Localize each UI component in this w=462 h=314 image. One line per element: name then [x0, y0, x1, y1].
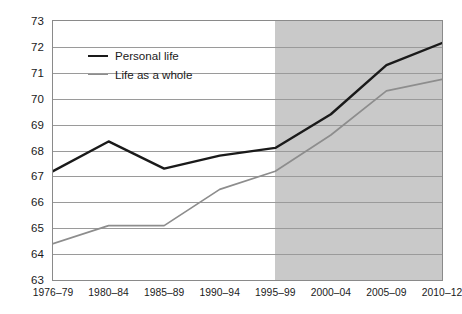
y-axis-tick-label: 72: [31, 41, 44, 53]
x-axis-tick-label: 1990–94: [199, 287, 239, 298]
legend-item-life-as-a-whole: Life as a whole: [88, 65, 192, 84]
y-axis-tick-label: 71: [31, 67, 44, 79]
y-axis-tick-label: 66: [31, 196, 44, 208]
x-axis-labels: 1976–791980–841985–891990–941995–992000–…: [52, 287, 443, 307]
y-axis-tick-label: 70: [31, 93, 44, 105]
x-axis-tick-label: 1976–79: [33, 287, 73, 298]
legend-line-swatch-icon: [88, 74, 108, 75]
y-axis-tick-label: 73: [31, 15, 44, 27]
legend-label: Personal life: [115, 49, 179, 62]
x-axis-tick-label: 1980–84: [88, 287, 128, 298]
legend-line-swatch-icon: [88, 55, 108, 57]
y-axis-tick-label: 65: [31, 222, 44, 234]
y-axis-labels: 6364656667686970717273: [0, 0, 52, 314]
x-axis-tick-label: 2010–12: [422, 287, 462, 298]
y-axis-tick-label: 63: [31, 274, 44, 286]
chart-legend: Personal life Life as a whole: [88, 46, 192, 84]
x-axis-tick-label: 1985–89: [144, 287, 184, 298]
y-axis-tick-label: 69: [31, 119, 44, 131]
y-axis-tick-label: 67: [31, 170, 44, 182]
x-axis-tick-label: 2005–09: [366, 287, 406, 298]
x-axis-tick-label: 2000–04: [311, 287, 351, 298]
y-axis-tick-label: 64: [31, 248, 44, 260]
x-axis-tick-label: 1995–99: [255, 287, 295, 298]
series-line-life-as-a-whole: [53, 79, 442, 243]
y-axis-tick-label: 68: [31, 145, 44, 157]
legend-item-personal-life: Personal life: [88, 46, 192, 65]
legend-label: Life as a whole: [115, 68, 192, 81]
